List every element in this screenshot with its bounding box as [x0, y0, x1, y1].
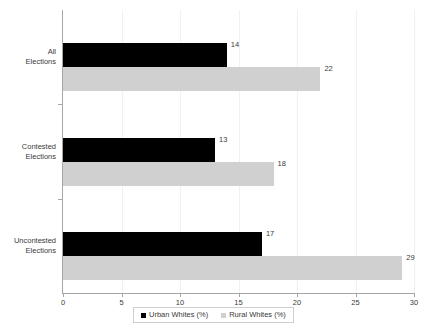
bar-chart: 051015202530AllElections1422ContestedEle…: [0, 0, 430, 331]
bar-value-label: 29: [406, 254, 414, 262]
y-axis-category-label: ContestedElections: [22, 142, 56, 162]
bar-rural: [63, 256, 402, 280]
x-axis-tick-label: 30: [399, 298, 429, 308]
x-axis-tick: [414, 293, 415, 297]
category-label-line: Elections: [26, 57, 56, 67]
bar-urban: [63, 232, 262, 256]
bar-value-label: 18: [278, 160, 286, 168]
y-axis-tick: [58, 104, 63, 105]
chart-legend: Urban Whites (%) Rural Whites (%): [133, 307, 294, 323]
bar-value-label: 22: [324, 65, 332, 73]
plot-area: [63, 10, 414, 293]
legend-label-urban: Urban Whites (%): [149, 310, 208, 320]
y-axis-line: [62, 10, 63, 293]
y-axis-category-label: UncontestedElections: [14, 236, 56, 256]
category-label-line: Elections: [14, 246, 56, 256]
legend-label-rural: Rural Whites (%): [229, 310, 286, 320]
y-axis-tick: [58, 199, 63, 200]
bar-rural: [63, 162, 274, 186]
x-axis-tick-label: 5: [107, 298, 137, 308]
legend-swatch-urban-icon: [141, 313, 146, 318]
category-label-line: Uncontested: [14, 236, 56, 246]
x-axis-tick: [356, 293, 357, 297]
category-label-line: Contested: [22, 142, 56, 152]
x-axis-tick: [239, 293, 240, 297]
bar-value-label: 17: [266, 230, 274, 238]
x-axis-tick-label: 0: [48, 298, 78, 308]
gridline: [356, 10, 357, 293]
legend-entry-urban[interactable]: Urban Whites (%): [141, 310, 208, 320]
bar-urban: [63, 138, 215, 162]
bar-rural: [63, 67, 320, 91]
bar-value-label: 13: [219, 136, 227, 144]
category-label-line: All: [26, 47, 56, 57]
x-axis-tick: [297, 293, 298, 297]
bar-urban: [63, 43, 227, 67]
category-label-line: Elections: [22, 152, 56, 162]
legend-swatch-rural-icon: [221, 313, 226, 318]
x-axis-tick: [63, 293, 64, 297]
x-axis-tick: [180, 293, 181, 297]
x-axis-tick: [122, 293, 123, 297]
gridline: [414, 10, 415, 293]
x-axis-tick-label: 25: [341, 298, 371, 308]
gridline: [297, 10, 298, 293]
bar-value-label: 14: [231, 41, 239, 49]
legend-entry-rural[interactable]: Rural Whites (%): [221, 310, 286, 320]
y-axis-category-label: AllElections: [26, 47, 56, 67]
